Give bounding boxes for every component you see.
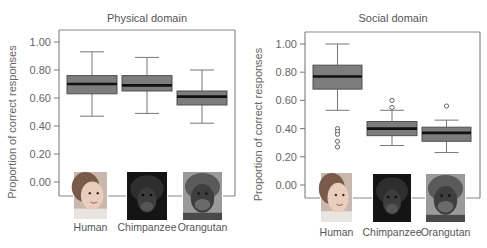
y-tick-label: 0.80 [276,66,297,78]
y-tick-label: 0.20 [276,151,297,163]
outlier-point [335,139,339,143]
chart-title: Social domain [358,12,427,24]
chimpanzee-photo [127,172,167,220]
y-tick-label: 0.20 [30,148,51,160]
outlier-point [444,104,448,108]
outlier-point [335,132,339,136]
box-chimpanzee [122,57,172,113]
y-tick-label: 1.00 [276,38,297,50]
category-label-chimpanzee: Chimpanzee [118,221,177,233]
outlier-point [390,105,394,109]
y-tick-label: 0.00 [276,179,297,191]
box-human [67,52,117,116]
box-orangutan [422,104,471,153]
y-tick-label: 0.80 [30,64,51,76]
y-tick-label: 1.00 [30,36,51,48]
category-label-orangutan: Orangutan [421,226,471,238]
human-child-photo [319,173,352,222]
box-human [313,44,362,149]
y-tick-label: 0.40 [276,123,297,135]
y-tick-label: 0.60 [30,92,51,104]
y-tick-label: 0.40 [30,120,51,132]
box-orangutan [177,70,227,123]
category-label-human: Human [320,226,354,238]
y-tick-label: 0.00 [30,176,51,188]
chart-canvas: Physical domainProportion of correct res… [0,0,487,248]
y-axis-label: Proportion of correct responses [6,45,18,199]
orangutan-photo [426,174,465,222]
category-label-human: Human [74,221,108,233]
human-child-photo [72,172,107,219]
orangutan-photo [183,172,222,220]
chart-title: Physical domain [107,12,187,24]
box-chimpanzee [367,98,417,145]
category-label-orangutan: Orangutan [178,221,228,233]
boxplot-panel-physical: Physical domainProportion of correct res… [6,12,235,233]
chimpanzee-photo [373,174,411,222]
y-tick-label: 0.60 [276,94,297,106]
category-label-chimpanzee: Chimpanzee [363,226,422,238]
outlier-point [390,98,394,102]
outlier-point [335,145,339,149]
y-axis-label: Proportion of correct responses [252,47,264,201]
boxplot-panel-social: Social domainProportion of correct respo… [252,12,480,238]
